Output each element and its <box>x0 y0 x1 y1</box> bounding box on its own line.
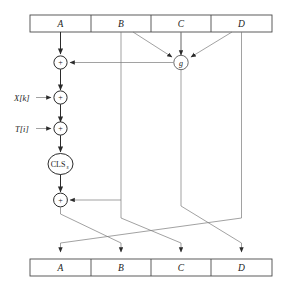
adder-xk[interactable]: + <box>54 91 67 104</box>
wire-adder4-to-out-b <box>61 207 122 252</box>
adder-b[interactable]: + <box>54 193 68 207</box>
wire-d-to-g <box>191 32 232 57</box>
g-function[interactable]: g <box>174 55 188 69</box>
wire-c-to-out-d <box>181 206 242 252</box>
g-input-wires <box>133 32 232 57</box>
cls-subscript: s <box>66 164 68 170</box>
adder-ti[interactable]: + <box>54 122 67 135</box>
adder-xk-label: + <box>58 93 63 102</box>
input-xk: X[k] <box>13 93 51 103</box>
crossover-wiring <box>61 206 242 252</box>
top-cell-label-d: D <box>237 19 245 29</box>
top-cell-label-a: A <box>57 19 64 29</box>
bottom-cell-label-a: A <box>57 263 64 273</box>
wire-b-to-g <box>133 32 172 57</box>
bottom-cell-label-b: B <box>118 263 124 273</box>
wire-b-to-out-c <box>121 218 181 252</box>
g-function-label: g <box>179 59 183 68</box>
top-register: A B C D <box>30 15 272 32</box>
md5-round-figure: A B C D g + <box>0 0 284 297</box>
bottom-cell-label-d: D <box>237 263 245 273</box>
diagram-canvas: A B C D g + <box>0 0 284 297</box>
input-ti: T[i] <box>15 124 51 134</box>
bottom-cell-label-c: C <box>178 263 185 273</box>
adder-g[interactable]: + <box>54 56 67 69</box>
circular-left-shift[interactable]: CLS s <box>48 154 73 175</box>
input-xk-label: X[k] <box>13 93 30 103</box>
bottom-register: A B C D <box>30 259 272 276</box>
wire-d-to-out-a <box>61 218 242 252</box>
adder-ti-label: + <box>58 124 63 133</box>
top-cell-label-c: C <box>178 19 185 29</box>
adder-b-label: + <box>58 196 63 205</box>
cls-label: CLS <box>51 160 66 169</box>
adder-g-label: + <box>58 58 63 67</box>
input-ti-label: T[i] <box>15 124 29 134</box>
top-cell-label-b: B <box>118 19 124 29</box>
